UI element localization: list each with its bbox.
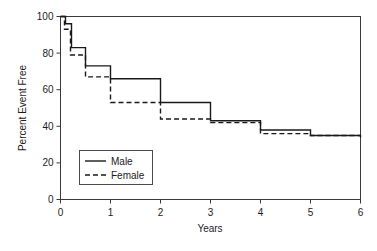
legend-label-female: Female: [111, 170, 145, 181]
y-tick-label: 20: [42, 157, 54, 168]
x-tick-label: 3: [208, 207, 214, 218]
x-tick-label: 6: [358, 207, 364, 218]
x-axis-ticks: [61, 200, 361, 204]
y-tick-label: 0: [48, 194, 54, 205]
x-tick-label: 2: [158, 207, 164, 218]
x-tick-label: 0: [58, 207, 64, 218]
figure-container: 020406080100 0123456 Years Percent Event…: [0, 0, 377, 251]
y-tick-label: 80: [42, 48, 54, 59]
x-axis-title: Years: [197, 223, 222, 234]
y-tick-label: 60: [42, 84, 54, 95]
kaplan-meier-chart: 020406080100 0123456 Years Percent Event…: [0, 0, 377, 251]
series-line-male: [61, 17, 361, 136]
x-axis-tick-labels: 0123456: [58, 207, 364, 218]
legend-label-male: Male: [111, 156, 133, 167]
y-tick-label: 100: [37, 11, 54, 22]
x-tick-label: 5: [308, 207, 314, 218]
y-axis-tick-labels: 020406080100: [37, 11, 54, 205]
x-tick-label: 1: [108, 207, 114, 218]
x-tick-label: 4: [258, 207, 264, 218]
y-tick-label: 40: [42, 121, 54, 132]
y-axis-ticks: [57, 17, 61, 200]
y-axis-title: Percent Event Free: [17, 64, 28, 151]
legend: Male Female: [80, 151, 153, 185]
